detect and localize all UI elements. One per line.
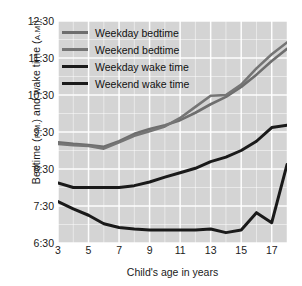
legend-swatch	[62, 48, 88, 51]
y-axis-tick-labels: 12:3011:3010:309:308:307:306:30	[22, 0, 54, 286]
legend-swatch	[62, 31, 88, 34]
legend-item[interactable]: Weekend wake time	[62, 75, 212, 92]
legend-label: Weekday wake time	[95, 61, 189, 73]
legend-item[interactable]: Weekday bedtime	[62, 24, 212, 41]
legend-item[interactable]: Weekday wake time	[62, 58, 212, 75]
x-axis-tick-label: 17	[259, 245, 285, 256]
x-axis-tick-label: 7	[106, 245, 132, 256]
y-axis-tick-label: 9:30	[24, 127, 54, 138]
x-axis-tick-label: 15	[228, 245, 254, 256]
x-axis-tick-label: 3	[45, 245, 71, 256]
x-axis-tick-label: 13	[198, 245, 224, 256]
legend-label: Weekday bedtime	[95, 27, 179, 39]
y-axis-tick-label: 7:30	[24, 201, 54, 212]
x-axis-tick-label: 5	[76, 245, 102, 256]
x-axis-title: Child's age in years	[58, 266, 287, 278]
legend-swatch	[62, 65, 88, 69]
sleep-times-line-chart: Bedtime (P.M.) and wake time (A.M.) 12:3…	[0, 0, 302, 286]
y-axis-tick-label: 10:30	[24, 90, 54, 101]
y-axis-tick-label: 12:30	[24, 16, 54, 27]
x-axis-tick-labels: 357911131517	[0, 245, 302, 261]
x-axis-tick-label: 11	[167, 245, 193, 256]
series-line	[58, 125, 287, 187]
x-axis-tick-label: 9	[137, 245, 163, 256]
chart-legend: Weekday bedtimeWeekend bedtimeWeekday wa…	[62, 24, 212, 92]
legend-item[interactable]: Weekend bedtime	[62, 41, 212, 58]
y-axis-tick-label: 8:30	[24, 164, 54, 175]
legend-label: Weekend bedtime	[95, 44, 179, 56]
y-axis-tick-label: 11:30	[24, 53, 54, 64]
legend-swatch	[62, 82, 88, 86]
legend-label: Weekend wake time	[95, 78, 189, 90]
